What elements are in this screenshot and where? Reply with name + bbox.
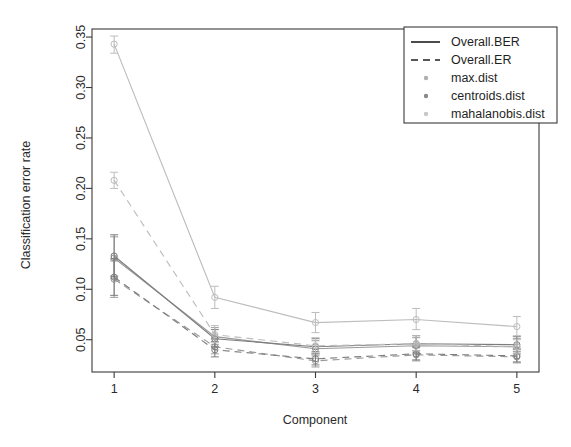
x-tick-label: 1	[111, 382, 118, 396]
series-line	[114, 258, 517, 349]
x-tick-label: 5	[513, 382, 520, 396]
legend-item-label: centroids.dist	[451, 89, 525, 103]
legend-item-label: Overall.ER	[451, 53, 511, 67]
chart-legend: Overall.BEROverall.ERmax.distcentroids.d…	[404, 27, 557, 123]
y-tick-label: 0.25	[74, 126, 88, 150]
y-tick-label: 0.35	[74, 25, 88, 49]
y-tick-label: 0.05	[74, 328, 88, 352]
x-tick-label: 4	[413, 382, 420, 396]
classification-error-rate-chart: 0.050.100.150.200.250.300.35 12345 Class…	[0, 0, 571, 447]
legend-item-label: max.dist	[451, 71, 498, 85]
legend-dot-icon	[424, 112, 428, 116]
series-line	[114, 256, 517, 347]
legend-dot-icon	[424, 76, 428, 80]
y-tick-label: 0.20	[74, 176, 88, 200]
legend-item-label: mahalanobis.dist	[451, 107, 545, 121]
x-tick-label: 3	[312, 382, 319, 396]
y-axis-title: Classification error rate	[19, 141, 33, 270]
y-tick-label: 0.10	[74, 277, 88, 301]
legend-dot-icon	[424, 94, 428, 98]
y-tick-label: 0.30	[74, 75, 88, 99]
y-tick-label: 0.15	[74, 227, 88, 251]
x-axis-title: Component	[283, 413, 348, 427]
legend-item-label: Overall.BER	[451, 35, 520, 49]
x-axis-ticks: 12345	[111, 372, 521, 396]
x-tick-label: 2	[211, 382, 218, 396]
y-axis-ticks: 0.050.100.150.200.250.300.35	[74, 25, 92, 352]
plot-canvas: 0.050.100.150.200.250.300.35 12345 Class…	[0, 0, 571, 447]
